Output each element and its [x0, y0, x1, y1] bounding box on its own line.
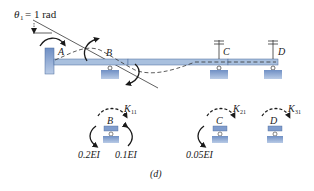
free-body-C: K 21 C 0.05EI	[186, 103, 246, 160]
free-body-C-label: C	[216, 115, 223, 126]
free-body-D: K 31 D	[262, 103, 301, 143]
beam-segment-BC	[128, 59, 228, 65]
free-body-B: K 11 B 0.2EI 0.1EI	[78, 103, 138, 160]
structural-diagram: θ 1 = 1 rad A B C D	[0, 0, 314, 191]
node-label-D: D	[277, 46, 286, 57]
node-label-B: B	[106, 47, 112, 58]
theta-subscript: 1	[20, 14, 24, 22]
roller-support-B	[101, 66, 119, 79]
moment-label-02EI: 0.2EI	[78, 149, 101, 160]
moment-005EI-arrow-icon	[198, 126, 204, 146]
moment-label-01EI: 0.1EI	[115, 149, 138, 160]
moment-02EI-arrow-icon	[90, 126, 96, 146]
k11-subscript: 11	[131, 109, 137, 115]
node-label-A: A	[57, 46, 65, 57]
free-body-B-label: B	[107, 115, 113, 126]
free-body-D-label: D	[269, 115, 278, 126]
fixed-support-A	[45, 48, 54, 74]
figure-caption: (d)	[150, 168, 162, 180]
rotation-label: θ 1 = 1 rad	[14, 8, 57, 22]
k31-subscript: 31	[295, 109, 301, 115]
moment-arrow-B-left-icon	[84, 39, 97, 61]
node-label-C: C	[223, 46, 230, 57]
moment-label-005EI: 0.05EI	[186, 149, 214, 160]
k21-subscript: 21	[240, 109, 246, 115]
moment-01EI-arrow-icon	[126, 126, 132, 146]
moment-arrow-A-icon	[40, 38, 64, 46]
theta-value: = 1 rad	[25, 8, 57, 20]
